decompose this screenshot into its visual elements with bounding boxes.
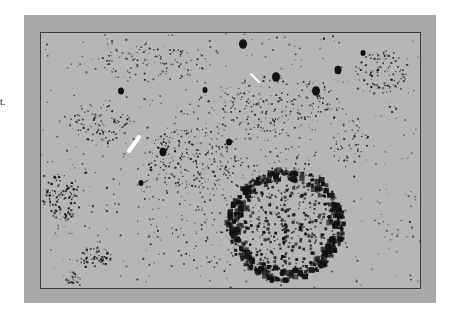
dense-particle: [203, 87, 208, 93]
dense-particle: [361, 50, 366, 56]
dense-particle: [118, 87, 124, 94]
dense-particle: [160, 148, 167, 156]
dense-particle: [312, 86, 320, 96]
dense-particle: [335, 66, 342, 74]
dense-particle: [226, 138, 232, 145]
dense-particle: [139, 180, 144, 186]
arrow-upper-right-icon: [251, 74, 259, 82]
dense-particle: [239, 39, 247, 49]
dense-particle: [272, 72, 280, 82]
micrograph-panel: [40, 32, 421, 289]
micrograph-image: [41, 33, 421, 289]
figure-side-text: t.: [0, 96, 5, 107]
